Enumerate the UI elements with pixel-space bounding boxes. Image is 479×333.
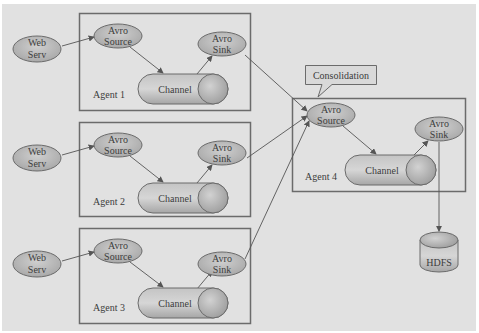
svg-text:Avro: Avro <box>108 25 128 36</box>
agent-4-sink: Avro Sink <box>415 117 463 141</box>
svg-text:Avro: Avro <box>212 253 232 264</box>
svg-text:Source: Source <box>104 145 132 156</box>
agent-4-channel: Channel <box>345 155 436 185</box>
agent-4-label: Agent 4 <box>305 171 337 182</box>
agent-1-label: Agent 1 <box>93 89 125 100</box>
agent-1-source: Avro Source <box>94 24 142 48</box>
agent-1-sink: Avro Sink <box>198 32 246 56</box>
svg-text:Sink: Sink <box>213 153 231 164</box>
svg-text:Avro: Avro <box>212 33 232 44</box>
svg-text:Avro: Avro <box>429 118 449 129</box>
svg-text:Web: Web <box>28 37 46 48</box>
agent-3-channel: Channel <box>138 288 228 318</box>
agent-2-source: Avro Source <box>94 133 142 157</box>
svg-text:Avro: Avro <box>212 142 232 153</box>
svg-text:Avro: Avro <box>108 134 128 145</box>
consolidation-callout: Consolidation <box>306 66 377 98</box>
callout-label: Consolidation <box>313 70 369 81</box>
web-serv-3: Web Serv <box>13 251 61 277</box>
svg-text:Sink: Sink <box>430 129 448 140</box>
svg-text:Source: Source <box>104 251 132 262</box>
svg-text:Serv: Serv <box>28 49 46 60</box>
svg-text:Channel: Channel <box>158 193 192 204</box>
svg-text:Source: Source <box>317 115 345 126</box>
agent-3-source: Avro Source <box>94 239 142 263</box>
hdfs-label: HDFS <box>426 257 452 268</box>
agent-2-channel: Channel <box>138 183 228 213</box>
svg-text:Channel: Channel <box>158 298 192 309</box>
svg-text:Web: Web <box>28 146 46 157</box>
agent-3-label: Agent 3 <box>93 302 125 313</box>
flume-diagram: Consolidation Web Serv Web Serv Web Serv… <box>0 0 479 333</box>
hdfs-database-icon: HDFS <box>420 232 458 272</box>
agent-2-sink: Avro Sink <box>198 141 246 165</box>
agent-2-label: Agent 2 <box>93 196 125 207</box>
svg-text:Avro: Avro <box>108 240 128 251</box>
agent-1-channel: Channel <box>138 74 228 104</box>
agent-4-source: Avro Source <box>307 103 355 127</box>
svg-text:Sink: Sink <box>213 44 231 55</box>
web-serv-2: Web Serv <box>13 145 61 171</box>
svg-text:Serv: Serv <box>28 158 46 169</box>
web-serv-1: Web Serv <box>13 36 61 62</box>
svg-text:Avro: Avro <box>321 104 341 115</box>
svg-text:Web: Web <box>28 252 46 263</box>
agent-3-sink: Avro Sink <box>198 252 246 276</box>
svg-text:Channel: Channel <box>365 165 399 176</box>
svg-text:Channel: Channel <box>158 84 192 95</box>
svg-text:Source: Source <box>104 36 132 47</box>
svg-text:Serv: Serv <box>28 264 46 275</box>
svg-text:Sink: Sink <box>213 264 231 275</box>
